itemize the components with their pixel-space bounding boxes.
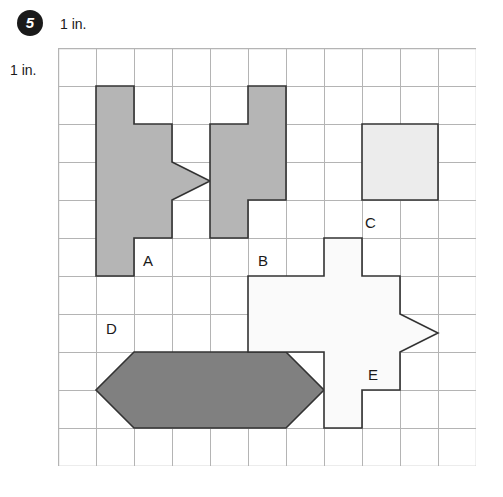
shape-c-label: C: [365, 214, 376, 231]
shape-b-label: B: [258, 252, 268, 269]
shape-e-label: E: [368, 366, 378, 383]
shape-a-label: A: [143, 252, 153, 269]
unit-label-vertical: 1 in.: [10, 62, 36, 78]
unit-label-horizontal: 1 in.: [60, 16, 86, 32]
problem-number-badge: 5: [17, 10, 43, 36]
shape-d-label: D: [106, 320, 117, 337]
shape-a: [96, 86, 210, 276]
shape-c: [362, 124, 438, 200]
geometry-grid: ABCDE: [58, 48, 476, 466]
shape-b: [210, 86, 286, 238]
shape-d: [96, 352, 324, 428]
